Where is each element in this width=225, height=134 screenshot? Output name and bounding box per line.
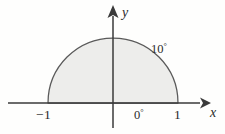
degree-symbol-zero: ° xyxy=(140,107,143,117)
x-tick-label-one: 1 xyxy=(174,108,181,122)
figure-canvas xyxy=(0,0,225,134)
angle-label-ten-degrees: 10° xyxy=(151,41,167,56)
x-tick-label-negative-one: −1 xyxy=(36,108,51,122)
x-axis-label: x xyxy=(210,106,216,120)
math-figure: y x −1 1 0° 10° xyxy=(0,0,225,134)
angle-ten-number: 10 xyxy=(151,42,164,56)
degree-symbol-ten: ° xyxy=(164,41,167,51)
angle-label-zero-degrees: 0° xyxy=(134,107,144,122)
y-axis-label: y xyxy=(122,6,128,20)
